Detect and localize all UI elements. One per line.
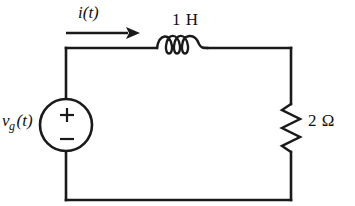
current-arrow-icon [66,27,140,39]
source-value-label: vg(t) [2,112,33,132]
source-argument: (t) [17,111,33,130]
resistor-zigzag [282,104,300,152]
circuit-schematic-svg [0,0,355,206]
voltage-source-circle [40,99,92,151]
inductor-value-label: 1 H [172,11,199,28]
source-subscript: g [9,119,15,133]
circuit-diagram: i(t) 1 H 2 Ω vg(t) [0,0,355,206]
inductor-coils [157,36,208,54]
current-label: i(t) [78,4,99,21]
resistor-value-label: 2 Ω [308,112,335,129]
